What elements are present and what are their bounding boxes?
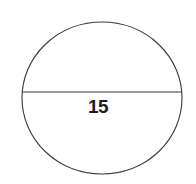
- circle-diagram-svg: [0, 0, 196, 184]
- diameter-measurement-label: 15: [0, 97, 196, 117]
- diagram-canvas: 15: [0, 0, 196, 184]
